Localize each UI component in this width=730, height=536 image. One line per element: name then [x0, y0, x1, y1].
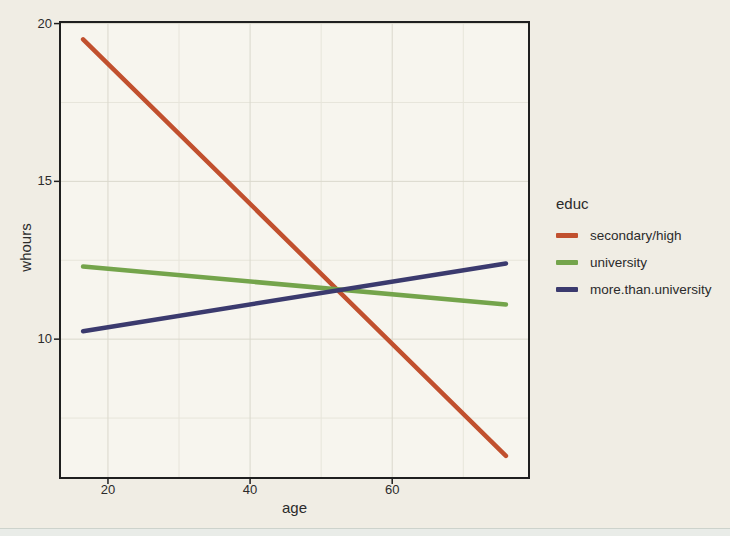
- x-axis-tick-label: 20: [88, 482, 128, 497]
- legend-item-label: university: [590, 255, 647, 270]
- y-axis-title: whours: [17, 168, 34, 328]
- legend-item-label: more.than.university: [590, 282, 712, 297]
- y-axis-tick-label: 15: [18, 173, 52, 188]
- x-axis-tick-label: 60: [372, 482, 412, 497]
- x-axis-tick-label: 40: [230, 482, 270, 497]
- legend-title: educ: [556, 195, 712, 212]
- legend-item: more.than.university: [556, 281, 712, 297]
- legend-item-label: secondary/high: [590, 228, 682, 243]
- legend-key-line-icon: [556, 287, 578, 292]
- legend-key-line-icon: [556, 233, 578, 238]
- y-axis-tick-label: 20: [18, 16, 52, 31]
- y-axis-tick-label: 10: [18, 331, 52, 346]
- legend: educ secondary/high university more.than…: [556, 195, 712, 308]
- legend-key-line-icon: [556, 260, 578, 265]
- scan-page-edge: [0, 528, 730, 536]
- legend-item: secondary/high: [556, 227, 712, 243]
- x-axis-title: age: [60, 499, 529, 516]
- legend-item: university: [556, 254, 712, 270]
